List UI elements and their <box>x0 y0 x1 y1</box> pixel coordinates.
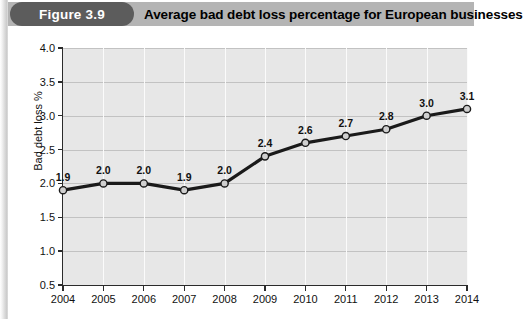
x-axis-tick <box>103 285 104 291</box>
data-point-marker <box>59 187 66 194</box>
x-axis-tick <box>305 285 306 291</box>
x-axis-tick-label: 2011 <box>334 293 358 305</box>
figure-title: Average bad debt loss percentage for Eur… <box>144 2 523 26</box>
x-axis-tick <box>426 285 427 291</box>
figure-number-label: Figure 3.9 <box>39 7 105 22</box>
page-left-edge <box>0 0 8 319</box>
x-axis-tick <box>143 285 144 291</box>
y-axis-tick-label: 3.5 <box>40 76 55 88</box>
figure-number-badge: Figure 3.9 <box>10 2 134 26</box>
y-axis-tick-label: 3.0 <box>40 110 55 122</box>
data-point-marker <box>100 180 107 187</box>
x-axis-tick <box>184 285 185 291</box>
y-axis-tick-label: 1.0 <box>40 245 55 257</box>
x-axis-tick-label: 2014 <box>455 293 479 305</box>
data-point-label: 2.0 <box>136 164 151 176</box>
data-point-marker <box>221 180 228 187</box>
data-point-label: 3.1 <box>460 90 475 102</box>
x-axis-tick-label: 2010 <box>293 293 317 305</box>
data-point-label: 2.4 <box>258 137 273 149</box>
series-line <box>63 48 467 285</box>
plot-area: 0.51.01.52.02.53.03.54.0 200420052006200… <box>62 48 467 286</box>
x-axis-tick <box>224 285 225 291</box>
data-point-label: 1.9 <box>177 171 192 183</box>
x-axis-tick <box>345 285 346 291</box>
y-axis-tick-label: 1.5 <box>40 211 55 223</box>
data-point-label: 2.8 <box>379 110 394 122</box>
x-axis-tick <box>62 285 63 291</box>
data-point-marker <box>181 187 188 194</box>
line-chart: Bad debt loss % 0.51.01.52.02.53.03.54.0… <box>8 27 476 307</box>
data-point-label: 2.6 <box>298 124 313 136</box>
data-point-marker <box>140 180 147 187</box>
x-axis-tick <box>466 285 467 291</box>
data-point-label: 2.0 <box>96 164 111 176</box>
x-axis-tick-label: 2008 <box>212 293 236 305</box>
figure-header: Figure 3.9 Average bad debt loss percent… <box>8 1 474 27</box>
y-axis-tick-label: 2.5 <box>40 144 55 156</box>
x-axis-tick-label: 2005 <box>91 293 115 305</box>
data-point-label: 1.9 <box>56 171 71 183</box>
x-axis-tick-label: 2004 <box>51 293 75 305</box>
data-point-label: 3.0 <box>419 97 434 109</box>
gridline-vertical <box>467 48 468 285</box>
x-axis-tick <box>264 285 265 291</box>
y-axis-tick-label: 0.5 <box>40 279 55 291</box>
y-axis-tick-label: 4.0 <box>40 42 55 54</box>
data-point-marker <box>342 132 349 139</box>
data-point-label: 2.7 <box>338 117 353 129</box>
data-point-marker <box>383 126 390 133</box>
x-axis-tick <box>386 285 387 291</box>
x-axis-tick-label: 2012 <box>374 293 398 305</box>
data-point-marker <box>463 105 470 112</box>
data-point-marker <box>261 153 268 160</box>
figure-caption <box>30 311 460 319</box>
x-axis-tick-label: 2007 <box>172 293 196 305</box>
series-polyline <box>63 109 467 190</box>
plot-inner: 0.51.01.52.02.53.03.54.0 200420052006200… <box>63 48 467 285</box>
x-axis-tick-label: 2006 <box>132 293 156 305</box>
data-point-marker <box>423 112 430 119</box>
data-point-label: 2.0 <box>217 164 232 176</box>
x-axis-tick-label: 2013 <box>414 293 438 305</box>
y-axis-tick-label: 2.0 <box>40 177 55 189</box>
x-axis-tick-label: 2009 <box>253 293 277 305</box>
data-point-marker <box>302 139 309 146</box>
